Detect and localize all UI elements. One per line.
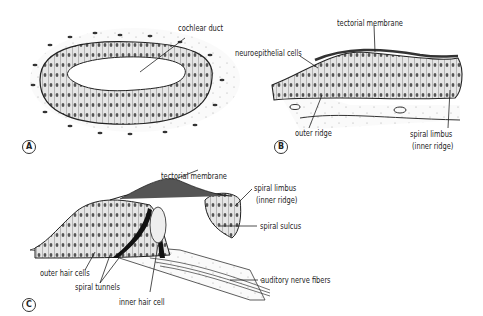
panel-c-drawing: [30, 170, 270, 300]
label-b-tectorial-membrane: tectorial membrane: [337, 18, 403, 28]
label-spiral-tunnels: spiral tunnels: [75, 282, 120, 292]
label-spiral-sulcus: spiral sulcus: [260, 221, 301, 231]
label-c-spiral-limbus: spiral limbus: [254, 183, 296, 193]
label-auditory-nerve-fibers: auditory nerve fibers: [261, 275, 331, 285]
label-inner-hair-cell: inner hair cell: [119, 297, 165, 307]
panel-letter-b: B: [274, 140, 288, 154]
panel-letter-c: C: [22, 298, 36, 312]
label-outer-hair-cells: outer hair cells: [40, 268, 90, 278]
label-b-inner-ridge: (inner ridge): [412, 141, 453, 151]
label-outer-ridge: outer ridge: [295, 128, 332, 138]
label-cochlear-duct: cochlear duct: [178, 23, 223, 33]
panel-a-drawing: [30, 28, 240, 135]
label-c-tectorial-membrane: tectorial membrane: [161, 171, 227, 181]
label-neuroepithelial-cells: neuroepithelial cells: [235, 48, 302, 58]
label-b-spiral-limbus: spiral limbus: [410, 129, 452, 139]
label-c-inner-ridge: (inner ridge): [256, 195, 297, 205]
panel-b-drawing: [272, 25, 462, 130]
panel-letter-a: A: [22, 140, 36, 154]
